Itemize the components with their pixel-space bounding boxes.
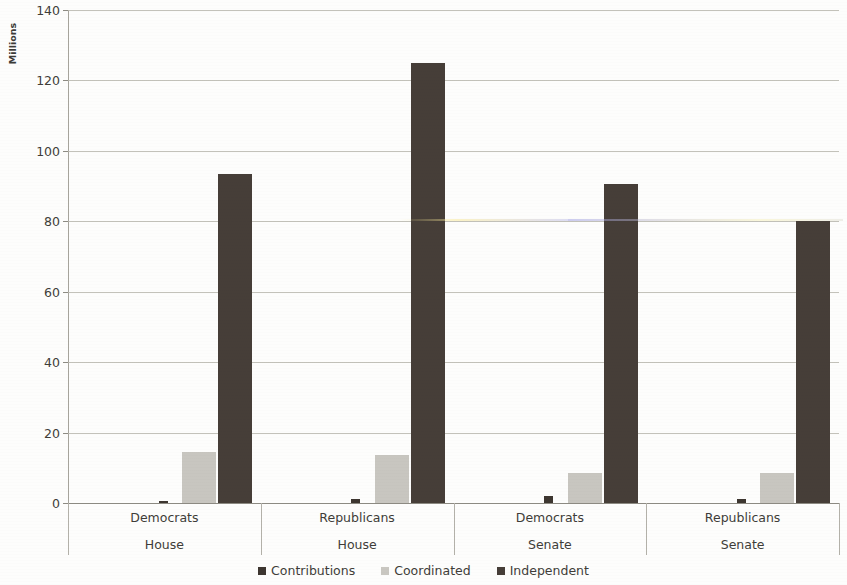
legend-label-coordinated: Coordinated [394, 563, 470, 578]
x-axis-label-party-0: Democrats [68, 503, 261, 525]
gridline-120 [68, 80, 839, 81]
y-tick-mark-60 [63, 292, 68, 293]
y-tick-mark-100 [63, 151, 68, 152]
legend-swatch-icon-contributions [258, 567, 266, 575]
gridline-100 [68, 151, 839, 152]
bar-independent-group-1 [411, 63, 445, 503]
bar-independent-group-3 [796, 221, 830, 503]
bar-coordinated-group-0 [182, 452, 216, 503]
y-tick-mark-20 [63, 433, 68, 434]
y-tick-label-60: 60 [44, 284, 60, 299]
y-tick-label-140: 140 [36, 3, 60, 18]
legend-swatch-icon-independent [497, 567, 505, 575]
gridline-140 [68, 10, 839, 11]
y-tick-label-20: 20 [44, 425, 60, 440]
legend-label-independent: Independent [510, 563, 589, 578]
y-tick-label-80: 80 [44, 214, 60, 229]
y-tick-label-0: 0 [52, 496, 60, 511]
x-axis-label-group-3: RepublicansSenate [646, 503, 839, 552]
bar-coordinated-group-3 [760, 473, 794, 503]
bar-independent-group-2 [604, 184, 638, 503]
x-axis-label-chamber-1: House [261, 525, 454, 552]
plot-area [68, 10, 839, 503]
y-tick-mark-80 [63, 221, 68, 222]
x-axis-label-party-3: Republicans [646, 503, 839, 525]
legend-label-contributions: Contributions [271, 563, 355, 578]
x-axis-label-group-1: RepublicansHouse [261, 503, 454, 552]
gridline-20 [68, 433, 839, 434]
bar-independent-group-0 [218, 174, 252, 503]
y-tick-label-100: 100 [36, 143, 60, 158]
chart-canvas: Millions 020406080100120140 DemocratsHou… [0, 0, 847, 585]
y-axis-title: Millions [7, 14, 18, 74]
legend-item-contributions[interactable]: Contributions [258, 563, 355, 578]
gridline-80 [68, 221, 839, 222]
gridline-40 [68, 362, 839, 363]
category-separator-edge-1 [839, 503, 840, 555]
y-tick-mark-140 [63, 10, 68, 11]
legend-swatch-icon-coordinated [381, 567, 389, 575]
legend-item-coordinated[interactable]: Coordinated [381, 563, 470, 578]
chart-legend: ContributionsCoordinatedIndependent [0, 563, 847, 578]
x-axis-label-chamber-3: Senate [646, 525, 839, 552]
bar-coordinated-group-2 [568, 473, 602, 503]
bar-coordinated-group-1 [375, 455, 409, 503]
y-tick-mark-120 [63, 80, 68, 81]
y-tick-mark-40 [63, 362, 68, 363]
legend-item-independent[interactable]: Independent [497, 563, 589, 578]
gridline-60 [68, 292, 839, 293]
x-axis-label-chamber-0: House [68, 525, 261, 552]
x-axis-label-group-0: DemocratsHouse [68, 503, 261, 552]
x-axis-label-party-2: Democrats [454, 503, 647, 525]
y-tick-label-40: 40 [44, 355, 60, 370]
y-tick-label-120: 120 [36, 73, 60, 88]
x-axis-label-party-1: Republicans [261, 503, 454, 525]
bar-contributions-group-2 [544, 496, 553, 503]
x-axis-label-chamber-2: Senate [454, 525, 647, 552]
x-axis-label-group-2: DemocratsSenate [454, 503, 647, 552]
